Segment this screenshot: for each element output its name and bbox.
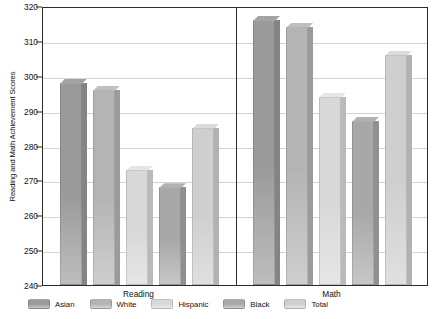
bar-face bbox=[60, 83, 82, 285]
legend-swatch-icon bbox=[90, 299, 112, 309]
bar-reading-white bbox=[93, 86, 120, 285]
y-axis-title: Reading and Math Achievement Scores bbox=[8, 42, 17, 232]
group-divider bbox=[236, 8, 237, 285]
legend-item-asian[interactable]: Asian bbox=[28, 299, 75, 309]
legend-item-black[interactable]: Black bbox=[223, 299, 269, 309]
legend-item-total[interactable]: Total bbox=[284, 299, 327, 309]
legend-label: Asian bbox=[55, 300, 75, 309]
bar-side bbox=[82, 83, 87, 285]
bar-math-white bbox=[286, 23, 313, 285]
legend-label: Total bbox=[311, 300, 327, 309]
bar-math-total bbox=[385, 51, 412, 285]
bar-side bbox=[275, 20, 280, 285]
bar-math-black bbox=[352, 117, 379, 285]
x-axis-group-label: Math bbox=[235, 289, 428, 299]
legend-label: Hispanic bbox=[178, 300, 208, 309]
bar-face bbox=[385, 55, 407, 285]
bar-face bbox=[159, 187, 181, 285]
legend-item-hispanic[interactable]: Hispanic bbox=[151, 299, 208, 309]
plot-area bbox=[42, 7, 428, 286]
bar-face bbox=[93, 90, 115, 285]
bar-face bbox=[126, 170, 148, 285]
legend-swatch-icon bbox=[284, 299, 306, 309]
legend-swatch-icon bbox=[151, 299, 173, 309]
bar-math-asian bbox=[253, 16, 280, 285]
legend-swatch-icon bbox=[28, 299, 50, 309]
bar-math-hispanic bbox=[319, 93, 346, 285]
bar-side bbox=[407, 55, 412, 285]
bar-reading-asian bbox=[60, 79, 87, 285]
x-axis-group-label: Reading bbox=[42, 289, 235, 299]
bar-side bbox=[341, 97, 346, 285]
bar-side bbox=[308, 27, 313, 285]
bar-side bbox=[181, 187, 186, 285]
bar-reading-total bbox=[192, 124, 219, 285]
bar-face bbox=[253, 20, 275, 285]
bar-face bbox=[352, 121, 374, 285]
bar-chart: Reading and Math Achievement Scores 2402… bbox=[0, 0, 432, 319]
legend-label: White bbox=[117, 300, 137, 309]
chart-legend: AsianWhiteHispanicBlackTotal bbox=[28, 299, 343, 309]
bar-face bbox=[286, 27, 308, 285]
bar-reading-hispanic bbox=[126, 166, 153, 285]
gridline bbox=[43, 43, 427, 44]
legend-label: Black bbox=[250, 300, 269, 309]
bar-face bbox=[192, 128, 214, 285]
bar-side bbox=[214, 128, 219, 285]
bar-side bbox=[148, 170, 153, 285]
bar-side bbox=[115, 90, 120, 285]
gridline bbox=[43, 78, 427, 79]
bar-face bbox=[319, 97, 341, 285]
bar-reading-black bbox=[159, 183, 186, 285]
legend-swatch-icon bbox=[223, 299, 245, 309]
legend-item-white[interactable]: White bbox=[90, 299, 137, 309]
bar-side bbox=[374, 121, 379, 285]
